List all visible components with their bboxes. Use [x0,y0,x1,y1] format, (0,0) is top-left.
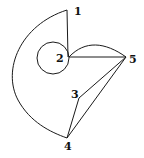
graph-diagram: 1 2 3 4 5 [0,0,144,158]
node-label-3: 3 [71,88,79,101]
edge-1-4 [12,10,67,138]
edge-2-5-arc [69,45,126,57]
node-label-4: 4 [64,140,72,153]
node-label-2: 2 [56,52,64,65]
node-label-5: 5 [129,53,137,66]
edge-3-4 [67,98,79,138]
node-label-1: 1 [74,5,82,18]
edge-2-2-loop [37,42,69,74]
edge-5-3 [79,57,126,98]
